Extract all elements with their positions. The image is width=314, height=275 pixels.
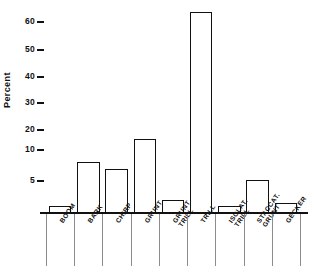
category-divider: [131, 214, 132, 266]
category-divider: [272, 214, 273, 266]
y-tick-mark: [37, 76, 44, 78]
y-tick-label: 40: [25, 71, 35, 81]
bar-chart: Percent 5102030405060 BOOMBARKCHIRPGRUNT…: [0, 0, 314, 275]
category-divider: [159, 214, 160, 266]
y-tick-label: 20: [25, 124, 35, 134]
y-tick-mark: [37, 21, 44, 23]
category-divider: [74, 214, 75, 266]
y-tick-label: 5: [30, 175, 35, 185]
y-tick-label: 30: [25, 97, 35, 107]
y-tick-mark: [37, 129, 44, 131]
category-divider: [102, 214, 103, 266]
y-tick-mark: [37, 49, 44, 51]
y-tick-mark: [37, 180, 44, 182]
bar-trill: [190, 12, 213, 212]
category-divider: [46, 214, 47, 266]
y-tick-label: 10: [25, 144, 35, 154]
category-divider: [187, 214, 188, 266]
category-divider: [300, 214, 301, 266]
y-tick-mark: [37, 149, 44, 151]
y-tick-mark: [37, 102, 44, 104]
category-divider: [215, 214, 216, 266]
bar-grunt: [134, 139, 157, 212]
category-divider: [244, 214, 245, 266]
y-tick-label: 50: [25, 44, 35, 54]
y-axis-ticks: 5102030405060: [0, 0, 44, 213]
y-tick-label: 60: [25, 16, 35, 26]
